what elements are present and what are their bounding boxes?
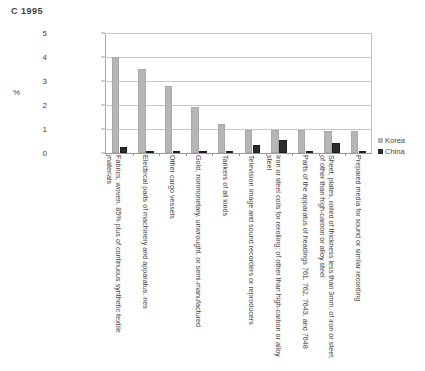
legend-label: China xyxy=(385,147,405,156)
x-axis-label: Prepared media for sound or similar reco… xyxy=(353,155,362,363)
chart-title: C 1995 xyxy=(11,6,43,16)
x-axis-label: Fabrics, woven, 85% plus of continuous s… xyxy=(105,155,123,363)
x-axis-label: Sheet, plates, rolled of thickness less … xyxy=(318,155,336,363)
chart-legend: KoreaChina xyxy=(378,136,405,158)
bar-korea[interactable] xyxy=(191,107,199,153)
x-axis-label: Parts of the apparatus of headings 761, … xyxy=(300,155,309,363)
bar-group[interactable] xyxy=(133,33,160,153)
bar-group[interactable] xyxy=(292,33,319,153)
bar-korea[interactable] xyxy=(324,131,332,153)
bar-group[interactable] xyxy=(345,33,372,153)
bar-china[interactable] xyxy=(226,151,234,153)
bar-group[interactable] xyxy=(212,33,239,153)
bar-china[interactable] xyxy=(359,151,367,153)
bar-korea[interactable] xyxy=(298,130,306,153)
bar-china[interactable] xyxy=(173,151,181,153)
bar-korea[interactable] xyxy=(245,130,253,153)
legend-item-china[interactable]: China xyxy=(378,147,405,156)
y-tick-label-4: 4 xyxy=(7,53,47,62)
bar-china[interactable] xyxy=(332,143,340,153)
bar-series-container xyxy=(106,33,372,153)
bar-group[interactable] xyxy=(319,33,346,153)
bar-china[interactable] xyxy=(199,151,207,153)
bar-korea[interactable] xyxy=(112,57,120,153)
bar-korea[interactable] xyxy=(165,86,173,153)
legend-item-korea[interactable]: Korea xyxy=(378,136,405,145)
x-axis-label: Iron or steel coils for rerolling; of ot… xyxy=(264,155,282,363)
bar-china[interactable] xyxy=(146,151,154,153)
bar-korea[interactable] xyxy=(218,124,226,153)
bar-group[interactable] xyxy=(266,33,293,153)
bar-china[interactable] xyxy=(253,145,261,153)
bar-group[interactable] xyxy=(186,33,213,153)
legend-swatch-icon xyxy=(378,149,383,154)
x-axis-label: Tankers of all kinds xyxy=(220,155,229,363)
y-tick-label-1: 1 xyxy=(7,125,47,134)
bar-china[interactable] xyxy=(120,147,128,153)
bar-korea[interactable] xyxy=(351,131,359,153)
bar-group[interactable] xyxy=(159,33,186,153)
x-axis-label: Television image and sound recorders or … xyxy=(247,155,256,363)
y-tick-label-5: 5 xyxy=(7,29,47,38)
bar-korea[interactable] xyxy=(271,130,279,153)
bar-group[interactable] xyxy=(239,33,266,153)
legend-label: Korea xyxy=(385,136,405,145)
legend-swatch-icon xyxy=(378,138,383,143)
x-axis-label: Other cargo vessels xyxy=(167,155,176,363)
bar-china[interactable] xyxy=(279,140,287,153)
y-tick-label-3: 3 xyxy=(7,77,47,86)
x-axis-label: Electrical parts of machinery and appara… xyxy=(141,155,150,363)
x-axis-label: Gold, nonmonetary, unwrought, or semi-ma… xyxy=(194,155,203,363)
bar-group[interactable] xyxy=(106,33,133,153)
y-tick-label-2: 2 xyxy=(7,101,47,110)
bar-china[interactable] xyxy=(306,151,314,153)
x-axis-category-labels: Fabrics, woven, 85% plus of continuous s… xyxy=(106,155,372,367)
y-axis-label: % xyxy=(13,88,20,97)
bar-korea[interactable] xyxy=(138,69,146,153)
y-tick-label-0: 0 xyxy=(7,149,47,158)
